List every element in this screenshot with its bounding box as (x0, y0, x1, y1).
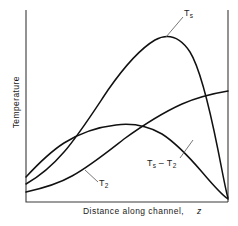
leader-line-t2 (85, 170, 98, 182)
curve-label-ts-subscript: s (190, 12, 193, 19)
curve-label-tdiff-subscript1: s (153, 162, 156, 169)
curve-label-t2-base: T (99, 178, 105, 188)
curve-ts (26, 37, 228, 198)
curve-ts-minus-t2 (26, 124, 228, 199)
curve-label-ts: Ts (184, 9, 193, 18)
curve-t2 (26, 91, 228, 192)
curve-label-ts-minus-t2: Ts – T2 (147, 159, 176, 168)
curve-label-t2: T2 (99, 179, 108, 188)
axis-frame-left-bottom (26, 10, 228, 202)
leader-line-ts (166, 17, 183, 37)
curve-label-ts-base: T (184, 8, 190, 18)
curve-label-tdiff-operator: – (156, 158, 167, 168)
y-axis-title: Temperature (12, 62, 21, 142)
x-axis-title: Distance along channel,z (83, 207, 202, 216)
x-axis-variable: z (197, 206, 202, 216)
curve-label-t2-subscript: 2 (105, 182, 109, 189)
plot-svg (0, 0, 238, 226)
curve-label-tdiff-base2: T (167, 158, 173, 168)
curve-label-tdiff-subscript2: 2 (173, 162, 177, 169)
curve-label-tdiff-base1: T (147, 158, 153, 168)
x-axis-title-text: Distance along channel, (83, 206, 184, 216)
figure-container: Ts T2 Ts – T2 Distance along channel,z T… (0, 0, 238, 226)
